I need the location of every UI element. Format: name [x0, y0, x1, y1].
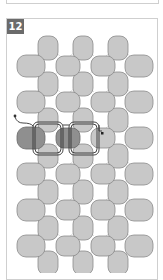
thread-start-point [14, 115, 17, 118]
thread-end-point [101, 132, 104, 135]
